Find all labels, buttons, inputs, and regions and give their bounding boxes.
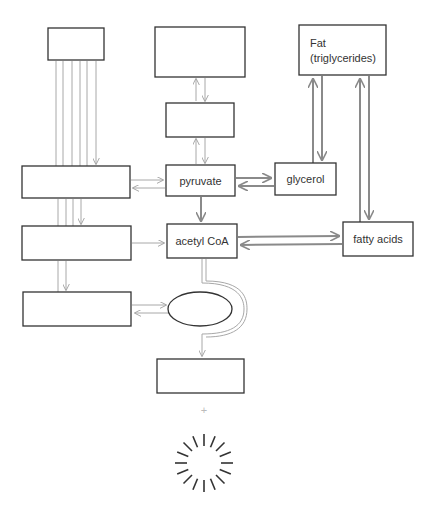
node-cycle-ellipse [168, 292, 232, 326]
node-pyruvate: pyruvate [166, 165, 235, 196]
edges-middle-box-pyruvate [196, 138, 205, 164]
node-fatty-acids: fatty acids [343, 222, 413, 256]
edges-left-box-3-ellipse [132, 305, 168, 313]
edges-pyruvate-glycerol [236, 178, 274, 186]
edges-left-box-1-pyruvate [131, 180, 165, 188]
edges-glycerol-fat [313, 76, 322, 163]
sunburst-energy-icon [175, 434, 233, 492]
fat-sublabel: (triglycerides) [310, 52, 376, 64]
node-acetyl-coa: acetyl CoA [167, 224, 237, 258]
node-left-box-1 [22, 166, 130, 198]
glycerol-label: glycerol [287, 173, 325, 185]
node-top-middle-box [155, 27, 245, 77]
fatty-acids-label: fatty acids [353, 233, 403, 245]
edges-top-left-to-left-box-1 [56, 61, 96, 166]
node-left-box-3 [23, 292, 131, 326]
metabolism-diagram: Fat (triglycerides) pyruvate glycerol ac… [0, 0, 434, 514]
edges-left-box-2-to-left-box-3 [58, 261, 66, 292]
node-fat: Fat (triglycerides) [299, 25, 386, 75]
edges-fat-fatty-acids [360, 76, 369, 222]
edges-left-box-1-to-left-box-2 [58, 199, 81, 226]
node-bottom-box [157, 359, 244, 393]
fat-label: Fat [310, 37, 326, 49]
acetyl-coa-label: acetyl CoA [175, 235, 229, 247]
node-glycerol: glycerol [275, 163, 336, 195]
node-middle-box [166, 103, 234, 137]
plus-sign: + [201, 404, 207, 416]
node-top-left-box [48, 28, 104, 60]
pyruvate-label: pyruvate [179, 175, 221, 187]
edges-top-middle-middle-box [196, 78, 205, 101]
node-left-box-2 [22, 226, 131, 260]
edges-acetyl-coa-fatty-acids [238, 236, 342, 245]
